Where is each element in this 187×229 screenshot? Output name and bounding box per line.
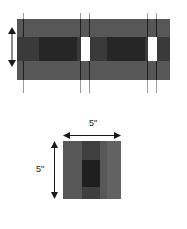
joint-tick-bottom-1 <box>23 80 24 93</box>
head-joint-gap-1 <box>81 37 90 61</box>
joint-tick-bottom-2 <box>80 80 81 93</box>
bottom-course-joint-3 <box>89 61 90 80</box>
section-square <box>63 141 121 199</box>
height-dimension-label: 5" <box>36 164 44 174</box>
bottom-course-joint-1 <box>23 61 24 80</box>
bottom-course-joint-4 <box>147 61 148 80</box>
bottom-course <box>17 61 170 80</box>
top-course-joint-5 <box>156 19 157 37</box>
top-course-joint-3 <box>89 19 90 37</box>
right-band <box>107 141 121 199</box>
top-course <box>17 19 170 37</box>
center-core <box>82 160 100 187</box>
head-joint-gap-2 <box>148 37 157 61</box>
technical-drawing: 5" 5" <box>0 0 187 229</box>
joint-tick-bottom-4 <box>147 80 148 93</box>
top-course-joint-1 <box>23 19 24 37</box>
top-course-joint-2 <box>80 19 81 37</box>
top-course-joint-4 <box>147 19 148 37</box>
elevation-view <box>0 0 187 100</box>
section-view: 5" 5" <box>0 108 187 229</box>
height-dimension-arrow <box>50 141 59 199</box>
width-dimension-label: 5" <box>89 118 97 128</box>
bottom-course-joint-2 <box>80 61 81 80</box>
course-height-arrow <box>6 27 18 67</box>
bottom-course-joint-5 <box>156 61 157 80</box>
middle-course <box>17 37 170 61</box>
middle-block-2 <box>107 37 145 61</box>
joint-tick-bottom-3 <box>89 80 90 93</box>
joint-tick-bottom-5 <box>156 80 157 93</box>
width-dimension-arrow <box>63 131 121 140</box>
middle-block-1 <box>39 37 77 61</box>
